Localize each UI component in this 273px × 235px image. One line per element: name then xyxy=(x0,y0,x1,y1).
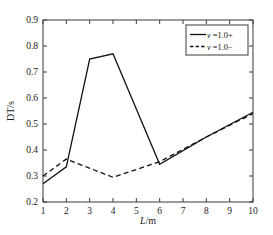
x-tick-label: 10 xyxy=(248,206,258,216)
y-tick-label: 0.5 xyxy=(26,119,38,129)
legend-label-v-plus: v =1.0+ xyxy=(207,31,233,40)
legend-label-v-minus: v =1.0− xyxy=(207,43,233,52)
y-tick-label: 0.4 xyxy=(26,145,38,155)
legend: v =1.0+ v =1.0− xyxy=(186,25,248,55)
x-tick-label: 1 xyxy=(41,206,46,216)
y-axis-title: DT/s xyxy=(5,101,16,121)
y-tick-label: 0.7 xyxy=(26,67,38,77)
y-tick-label: 0.6 xyxy=(26,93,38,103)
y-axis-tick-labels: 0.20.30.40.50.60.70.80.9 xyxy=(26,15,38,207)
x-tick-label: 9 xyxy=(227,206,232,216)
series-line-v-plus xyxy=(43,54,253,184)
y-tick-label: 0.8 xyxy=(26,41,38,51)
figure-container: 12345678910 0.20.30.40.50.60.70.80.9 L/m… xyxy=(0,0,273,235)
y-tick-label: 0.9 xyxy=(26,15,38,25)
x-tick-label: 6 xyxy=(157,206,162,216)
x-tick-label: 3 xyxy=(87,206,92,216)
series-line-v-minus xyxy=(43,114,253,178)
x-tick-label: 5 xyxy=(134,206,139,216)
line-chart: 12345678910 0.20.30.40.50.60.70.80.9 L/m… xyxy=(0,0,273,235)
y-tick-label: 0.3 xyxy=(26,171,38,181)
x-tick-label: 7 xyxy=(181,206,186,216)
x-tick-label: 4 xyxy=(111,206,116,216)
x-axis-title: L/m xyxy=(139,215,156,226)
y-tick-label: 0.2 xyxy=(26,197,38,207)
x-tick-label: 8 xyxy=(204,206,209,216)
x-tick-label: 2 xyxy=(64,206,69,216)
